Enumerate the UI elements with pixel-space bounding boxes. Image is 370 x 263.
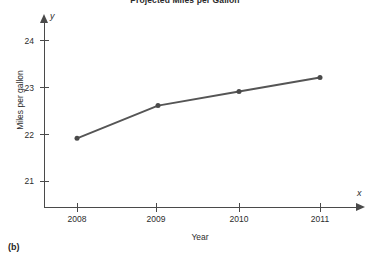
data-series [0, 0, 370, 263]
chart-figure: Projected Miles per Gallon y x 24 23 22 … [0, 0, 370, 263]
data-point [318, 75, 323, 80]
series-markers [75, 75, 323, 141]
data-point [237, 89, 242, 94]
series-line [77, 77, 320, 138]
data-point [75, 136, 80, 141]
data-point [156, 103, 161, 108]
panel-label: (b) [8, 242, 20, 252]
